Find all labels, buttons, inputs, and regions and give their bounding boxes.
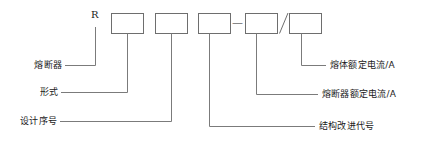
box-fuse-rated-current[interactable] [246, 14, 278, 34]
label-fuse: 熔断器 [10, 60, 62, 71]
prefix-letter-r: R [91, 9, 99, 20]
label-form: 形式 [10, 87, 58, 98]
slash-separator-line [280, 13, 289, 34]
label-fuse-rated-current: 熔断器额定电流/A [322, 89, 396, 100]
box-form[interactable] [112, 14, 144, 34]
box-element-rated-current[interactable] [290, 14, 322, 34]
leader-fuse-rated-current [257, 34, 319, 95]
label-structure-code: 结构改进代号 [319, 121, 374, 132]
leader-structure-code [210, 34, 316, 127]
leader-form [61, 34, 128, 93]
leader-fuse [65, 27, 96, 66]
fuse-model-designation-diagram: R — 熔断器 形式 设计序号 熔体额定电流/A 熔断器额定电流/A 结构改进代… [0, 0, 433, 141]
box-structure-code[interactable] [199, 14, 231, 34]
dash-separator: — [232, 16, 243, 29]
label-element-rated-current: 熔体额定电流/A [330, 60, 395, 71]
box-design-number[interactable] [156, 14, 188, 34]
leader-design-number [60, 34, 172, 122]
label-design-number: 设计序号 [5, 116, 57, 127]
leader-element-rated-current [302, 34, 327, 66]
